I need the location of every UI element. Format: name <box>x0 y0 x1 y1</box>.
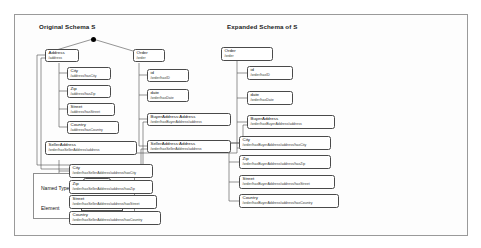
node-label: City <box>71 69 79 73</box>
exp-node-buyer-zip[interactable]: Zip /order/hasBuyerAddress/address/hasZi… <box>239 155 331 169</box>
exp-node-selleraddress[interactable]: SellerAddress /order/hasSellerAddress/ad… <box>45 141 137 155</box>
node-order-buyeraddress[interactable]: BuyerAddress:Address /order/hasBuyerAddr… <box>147 113 231 126</box>
node-label: date <box>251 93 260 97</box>
node-path: /order/hasSellerAddress/address/hasCount… <box>73 219 143 223</box>
node-label: Country <box>243 196 258 200</box>
node-path: /order/hasDate <box>151 97 174 101</box>
figure-frame: Original Schema S Expanded Schema of S A… <box>14 14 468 236</box>
node-path: /order/hasBuyerAddress/address <box>151 121 202 125</box>
legend-label-element: Element <box>41 205 59 211</box>
node-label: id <box>251 68 254 72</box>
node-path: /order/hasSellerAddress/address/hasStree… <box>73 203 140 207</box>
right-panel-title: Expanded Schema of S <box>227 23 297 30</box>
exp-node-seller-country[interactable]: Country /order/hasSellerAddress/address/… <box>69 211 161 225</box>
node-path: /order/hasBuyerAddress/address/hasCountr… <box>243 202 313 206</box>
node-order-id[interactable]: id /order/hasID <box>147 69 189 82</box>
root-dot-icon <box>91 37 96 42</box>
node-label: SellerAddress:Address <box>151 142 196 146</box>
node-path: /order <box>225 55 234 59</box>
node-address[interactable]: Address /address <box>45 49 79 62</box>
legend-label-named-type: Named Type <box>41 185 69 191</box>
exp-node-buyer-country[interactable]: Country /order/hasBuyerAddress/address/h… <box>239 194 339 208</box>
node-path: /address/hasStreet <box>71 111 100 115</box>
node-order-date[interactable]: date /order/hasDate <box>147 89 189 102</box>
node-label: Country <box>73 213 88 217</box>
node-path: /address/hasCountry <box>71 129 103 133</box>
exp-node-buyeraddress[interactable]: BuyerAddress /order/hasBuyerAddress/addr… <box>247 115 335 129</box>
node-label: Street <box>71 105 83 109</box>
node-path: /order/hasSellerAddress/address <box>151 148 202 152</box>
exp-node-seller-street[interactable]: Street /order/hasSellerAddress/address/h… <box>69 195 157 209</box>
node-label: SellerAddress <box>49 143 76 147</box>
node-path: /order/hasBuyerAddress/address/hasZip <box>243 163 306 167</box>
node-label: Zip <box>243 157 249 161</box>
exp-node-order[interactable]: Order /order <box>221 47 273 61</box>
exp-node-seller-city[interactable]: City /order/hasSellerAddress/address/has… <box>69 164 153 178</box>
node-label: BuyerAddress:Address <box>151 115 196 119</box>
node-label: Order <box>225 49 236 53</box>
exp-node-id[interactable]: id /order/hasID <box>247 66 293 80</box>
node-path: /order/hasBuyerAddress/address <box>251 123 302 127</box>
node-label: BuyerAddress <box>251 117 279 121</box>
node-path: /address/hasCity <box>71 75 97 79</box>
node-address-street[interactable]: Street /address/hasStreet <box>67 103 115 116</box>
node-order[interactable]: Order /order <box>133 49 165 62</box>
figure-canvas: Original Schema S Expanded Schema of S A… <box>0 0 481 248</box>
node-path: /order/hasDate <box>251 99 274 103</box>
node-path: /order/hasBuyerAddress/address/hasCity <box>243 144 307 148</box>
node-address-country[interactable]: Country /address/hasCountry <box>67 121 119 134</box>
node-path: /address/hasZip <box>71 93 96 97</box>
node-path: /order <box>137 57 146 61</box>
node-label: Address <box>49 51 65 55</box>
node-label: date <box>151 91 160 95</box>
exp-node-date[interactable]: date /order/hasDate <box>247 91 293 105</box>
exp-node-seller-zip[interactable]: Zip /order/hasSellerAddress/address/hasZ… <box>69 180 153 194</box>
node-address-zip[interactable]: Zip /address/hasZip <box>67 85 111 98</box>
node-path: /order/hasSellerAddress/address/hasCity <box>73 172 137 176</box>
node-path: /order/hasSellerAddress/address/hasZip <box>73 188 135 192</box>
node-label: Zip <box>73 182 79 186</box>
node-path: /order/hasID <box>251 74 270 78</box>
node-label: City <box>73 166 81 170</box>
node-address-city[interactable]: City /address/hasCity <box>67 67 111 80</box>
node-label: Street <box>243 177 255 181</box>
node-order-selleraddress[interactable]: SellerAddress:Address /order/hasSellerAd… <box>147 140 231 153</box>
node-label: Zip <box>71 87 77 91</box>
exp-node-buyer-city[interactable]: City /order/hasBuyerAddress/address/hasC… <box>239 136 331 150</box>
node-path: /order/hasBuyerAddress/address/hasStreet <box>243 183 310 187</box>
left-panel-title: Original Schema S <box>39 23 95 30</box>
node-label: Order <box>137 51 148 55</box>
exp-node-buyer-street[interactable]: Street /order/hasBuyerAddress/address/ha… <box>239 175 335 189</box>
node-label: Country <box>71 123 86 127</box>
node-path: /address <box>49 57 62 61</box>
node-label: Street <box>73 197 85 201</box>
node-path: /order/hasID <box>151 77 170 81</box>
node-path: /order/hasSellerAddress/address <box>49 149 100 153</box>
node-label: id <box>151 71 154 75</box>
node-label: City <box>243 138 251 142</box>
